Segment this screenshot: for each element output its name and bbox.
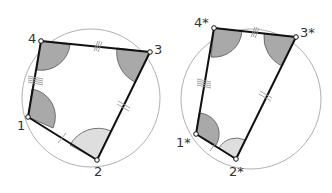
angle-sector-3 (117, 48, 150, 82)
vertex-4-star (212, 26, 217, 31)
label-1: 1 (17, 118, 25, 133)
vertex-2 (95, 158, 100, 163)
vertex-1 (26, 115, 31, 120)
angle-sector-4 (37, 41, 70, 70)
label-3: 3 (154, 42, 162, 57)
label-2: 2 (94, 164, 102, 179)
diagram-canvas: 4 3 2 1 (0, 0, 332, 193)
vertex-3 (148, 50, 153, 55)
right-figure: 4* 3* 2* 1* (176, 15, 321, 179)
left-figure: 4 3 2 1 (17, 29, 162, 179)
angle-sector-4-star (211, 28, 242, 57)
vertex-3-star (294, 35, 299, 40)
label-2-star: 2* (229, 164, 244, 179)
label-4-star: 4* (194, 15, 209, 30)
label-1-star: 1* (176, 135, 191, 150)
angle-sector-3-star (264, 34, 296, 66)
vertex-1-star (194, 132, 199, 137)
label-4: 4 (28, 31, 36, 46)
label-3-star: 3* (300, 25, 315, 40)
vertex-4 (39, 39, 44, 44)
vertex-2-star (234, 157, 239, 162)
